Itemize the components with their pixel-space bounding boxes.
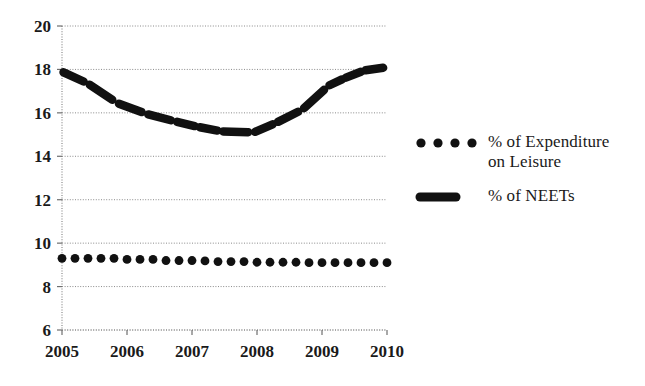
legend-item-neets: % of NEETs	[414, 186, 642, 206]
y-tick-label: 14	[34, 147, 52, 166]
neets-dash-segment	[223, 131, 248, 132]
expenditure-dot	[370, 258, 379, 267]
neets-dash-segment	[200, 127, 218, 130]
x-axis-tick-labels: 200520062007200820092010	[45, 342, 404, 361]
y-tick-label: 12	[34, 191, 51, 210]
expenditure-dot	[357, 258, 366, 267]
x-tick-label: 2006	[110, 342, 144, 361]
expenditure-dot	[84, 254, 93, 263]
neets-dash-segment	[329, 79, 342, 85]
neets-dash-segment	[366, 68, 384, 71]
series-expenditure-on-leisure	[58, 254, 392, 267]
expenditure-dot	[383, 258, 392, 267]
expenditure-dot	[240, 257, 249, 266]
x-tick-label: 2009	[305, 342, 339, 361]
legend-label-expenditure: % of Expenditure on Leisure	[488, 132, 610, 172]
expenditure-dot	[136, 255, 145, 264]
x-tick-label: 2008	[240, 342, 274, 361]
y-tick-label: 6	[43, 321, 52, 340]
chart-legend: % of Expenditure on Leisure % of NEETs	[414, 132, 642, 220]
neets-dash-segment	[64, 72, 84, 81]
expenditure-dot	[253, 258, 262, 267]
y-tick-label: 10	[34, 234, 51, 253]
expenditure-dot	[175, 256, 184, 265]
expenditure-dot	[58, 254, 67, 263]
expenditure-dot	[188, 256, 197, 265]
neets-dash-segment	[304, 90, 324, 108]
expenditure-dot	[201, 257, 210, 266]
neets-dash-segment	[90, 85, 113, 100]
expenditure-dot	[149, 255, 158, 264]
neets-dash-segment	[255, 124, 273, 132]
gridlines-group	[62, 26, 387, 330]
expenditure-dot	[344, 258, 353, 267]
y-tick-label: 18	[34, 60, 51, 79]
expenditure-dot	[214, 257, 223, 266]
expenditure-dot	[305, 258, 314, 267]
expenditure-dot	[110, 254, 119, 263]
thick-dash-marker-icon	[414, 186, 488, 206]
chart-container: 20181614121086 200520062007200820092010 …	[0, 0, 645, 386]
series-neets	[64, 68, 384, 132]
chart-plot-area: 20181614121086 200520062007200820092010	[0, 0, 410, 386]
legend-label-neets: % of NEETs	[488, 186, 575, 206]
legend-item-expenditure: % of Expenditure on Leisure	[414, 132, 642, 172]
dotted-marker-icon	[414, 132, 488, 152]
expenditure-dot	[97, 254, 106, 263]
x-axis-ticks	[62, 330, 387, 335]
neets-dash-segment	[119, 104, 142, 112]
expenditure-dot	[71, 254, 80, 263]
expenditure-dot	[227, 257, 236, 266]
expenditure-dot	[331, 258, 340, 267]
expenditure-dot	[292, 258, 301, 267]
neets-dash-segment	[148, 114, 171, 120]
expenditure-dot	[279, 258, 288, 267]
y-axis-tick-labels: 20181614121086	[34, 17, 52, 340]
expenditure-dot	[123, 255, 132, 264]
neets-dash-segment	[177, 122, 195, 126]
x-tick-label: 2005	[45, 342, 79, 361]
y-tick-label: 20	[34, 17, 51, 36]
expenditure-dot	[162, 256, 171, 265]
neets-dash-segment	[346, 72, 361, 78]
y-tick-label: 16	[34, 104, 51, 123]
x-tick-label: 2007	[175, 342, 210, 361]
expenditure-dot	[266, 258, 275, 267]
x-tick-label: 2010	[370, 342, 404, 361]
y-tick-label: 8	[43, 278, 52, 297]
expenditure-dot	[318, 258, 327, 267]
